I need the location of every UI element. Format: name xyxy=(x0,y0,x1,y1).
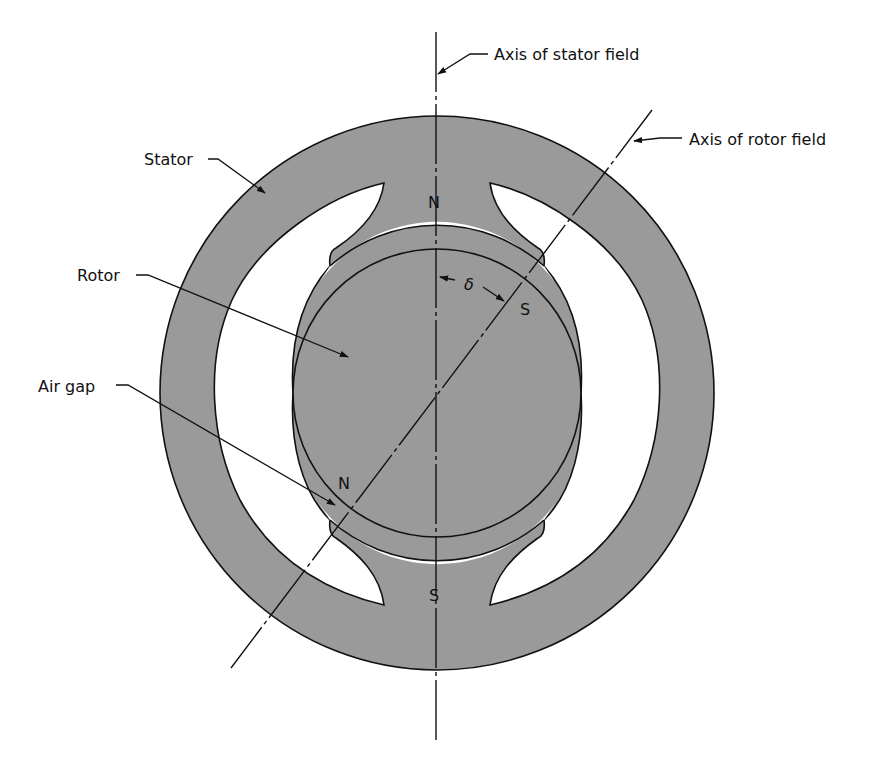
label-stator-axis: Axis of stator field xyxy=(494,45,639,64)
label-delta: δ xyxy=(464,275,474,294)
pole-rotor-north: N xyxy=(338,474,350,493)
label-air-gap: Air gap xyxy=(38,377,95,396)
pole-stator-south: S xyxy=(429,586,439,605)
label-rotor: Rotor xyxy=(77,266,120,285)
pole-rotor-south: S xyxy=(520,300,530,319)
rotor-axis-leader xyxy=(634,138,682,141)
rotor xyxy=(293,249,581,537)
machine-diagram: Axis of stator field Axis of rotor field… xyxy=(0,0,883,773)
label-stator: Stator xyxy=(144,150,193,169)
label-rotor-axis: Axis of rotor field xyxy=(689,130,826,149)
pole-stator-north: N xyxy=(428,193,440,212)
stator-axis-leader xyxy=(438,54,488,74)
